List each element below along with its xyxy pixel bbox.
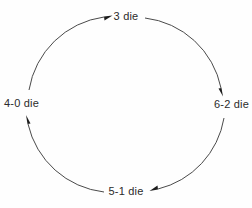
cycle-diagram: 3 die 6-2 die 5-1 die 4-0 die	[0, 0, 252, 208]
arrowhead-left-icon	[150, 186, 159, 192]
arc-right-to-bottom	[158, 118, 224, 189]
arc-left-to-top	[29, 17, 104, 90]
arc-top-to-right	[145, 18, 221, 88]
cycle-node-label-right: 6-2 die	[214, 98, 249, 110]
cycle-node-label-bottom: 5-1 die	[108, 185, 143, 197]
cycle-node-label-left: 4-0 die	[4, 97, 39, 109]
cycle-node-label-top: 3 die	[114, 10, 139, 22]
arc-bottom-to-left	[28, 124, 104, 192]
arrowhead-down-icon	[219, 88, 224, 97]
arrowhead-up-icon	[26, 115, 31, 124]
arrowhead-right-icon	[104, 16, 113, 21]
